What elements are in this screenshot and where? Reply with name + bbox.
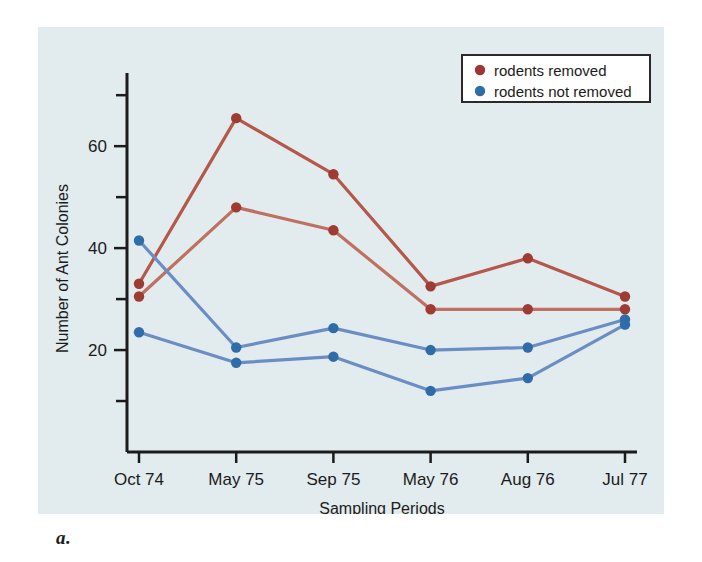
series-line [139,240,625,350]
data-point-marker [134,235,144,245]
line-chart: 204060Number of Ant ColoniesOct 74May 75… [38,27,664,514]
data-point-marker [231,358,241,368]
x-axis-tick-label: Jul 77 [602,470,647,489]
x-axis-tick-label: Oct 74 [114,470,164,489]
legend-marker-icon [475,86,485,96]
data-point-marker [425,386,435,396]
data-point-marker [231,113,241,123]
data-point-marker [134,291,144,301]
data-point-marker [134,327,144,337]
data-point-marker [620,304,630,314]
data-point-marker [425,345,435,355]
chart-panel-inner: 204060Number of Ant ColoniesOct 74May 75… [38,27,664,514]
figure-container: 204060Number of Ant ColoniesOct 74May 75… [0,0,702,562]
y-axis-tick-label: 20 [88,341,107,360]
data-point-marker [134,279,144,289]
y-axis-tick-label: 40 [88,239,107,258]
data-point-marker [523,304,533,314]
data-point-marker [425,281,435,291]
x-axis-tick-label: May 75 [208,470,264,489]
data-point-marker [620,319,630,329]
x-axis-tick-label: Sep 75 [306,470,360,489]
series-line [139,325,625,391]
y-axis-tick-label: 60 [88,137,107,156]
chart-panel: 204060Number of Ant ColoniesOct 74May 75… [38,27,664,514]
data-point-marker [523,342,533,352]
x-axis-title: Sampling Periods [319,500,444,514]
data-point-marker [328,323,338,333]
legend-entry-label: rodents removed [494,62,607,79]
legend-marker-icon [475,65,485,75]
data-point-marker [328,225,338,235]
data-point-marker [523,253,533,263]
data-point-marker [328,169,338,179]
series-line [139,207,625,309]
data-point-marker [523,373,533,383]
x-axis-tick-label: Aug 76 [501,470,555,489]
legend-entry-label: rodents not removed [494,83,632,100]
data-point-marker [231,202,241,212]
y-axis-title: Number of Ant Colonies [54,184,71,353]
data-point-marker [425,304,435,314]
data-point-marker [620,291,630,301]
x-axis-tick-label: May 76 [403,470,459,489]
data-point-marker [231,342,241,352]
data-point-marker [328,351,338,361]
chart-legend: rodents removedrodents not removed [462,55,650,102]
figure-caption: a. [56,527,71,549]
